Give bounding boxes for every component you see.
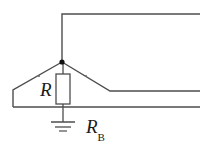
contact-mark-left xyxy=(38,75,40,77)
wire-top-riser xyxy=(62,14,200,62)
ground-resistor-label: RB xyxy=(86,117,105,140)
ground-resistor-label-subscript: B xyxy=(98,131,105,143)
ground-symbol xyxy=(51,122,75,131)
wire-right-branch xyxy=(62,62,200,91)
wire-left-branch xyxy=(13,62,62,107)
ground-resistor-label-base: R xyxy=(86,116,98,137)
circuit-diagram-figure: R RB xyxy=(0,0,209,151)
junction-node-dot xyxy=(59,59,64,64)
resistor-label: R xyxy=(40,80,52,99)
resistor-body xyxy=(56,74,70,104)
contact-mark-right xyxy=(85,75,87,77)
